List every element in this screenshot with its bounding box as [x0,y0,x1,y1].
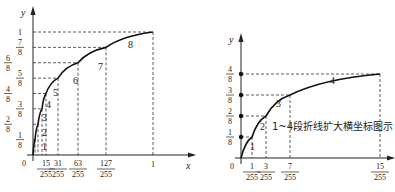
y-axis-label: y [228,34,234,45]
y-tick-numerator: 2 [228,107,232,116]
y-tick-dot [239,72,243,76]
x-tick-denominator: 255 [52,170,64,179]
segment-label: 4 [46,99,51,110]
x-tick-numerator: 15 [42,159,50,168]
y-tick-numerator: 3 [18,100,22,109]
y-tick-numerator: 2 [6,115,10,124]
origin-label: 0 [230,162,234,171]
y-tick-denominator: 8 [6,64,10,73]
curve-line [33,32,153,155]
x-tick-numerator: 7 [288,162,292,171]
segment-label: 2 [260,121,265,132]
segment-label: 1 [42,141,47,152]
x-tick-numerator: 127 [100,159,112,168]
y-tick-numerator: 7 [18,38,22,47]
origin-label: 0 [22,159,26,168]
y-axis-arrow [31,6,36,15]
x-tick-numerator: 1 [250,162,254,171]
segment-label: 2 [42,127,47,138]
y-tick-numerator: 4 [228,65,232,74]
x-axis-label: x [185,160,191,171]
y-tick-denominator: 8 [18,141,22,150]
y-tick-denominator: 8 [228,117,232,126]
x-tick-denominator: 255 [374,173,386,182]
annotation-text: 1~4段折线扩大横坐标图示 [272,120,393,132]
y-tick-denominator: 8 [228,96,232,105]
y-tick-numerator: 5 [18,69,22,78]
y-tick-dot [239,135,243,139]
y-tick-dot [239,93,243,97]
x-tick-denominator: 255 [100,170,112,179]
x-axis-arrow [387,156,395,161]
y-tick-denominator: 8 [6,125,10,134]
segment-label: 8 [128,39,133,50]
segment-label: 1 [250,141,255,152]
x-tick-numerator: 3 [264,162,268,171]
y-tick-numerator: 6 [6,54,10,63]
x-tick-denominator: 255 [72,170,84,179]
x-tick-numerator: 15 [376,162,384,171]
x-tick-numerator: 31 [54,159,62,168]
y-tick-denominator: 8 [228,75,232,84]
y-tick-numerator: 4 [6,85,10,94]
y-tick-denominator: 8 [228,138,232,147]
segment-label: 3 [42,112,47,123]
x-tick-denominator: 255 [284,173,296,182]
y-tick-denominator: 8 [18,110,22,119]
y-axis-arrow [239,33,244,42]
segment-label: 7 [98,61,103,72]
x-tick-denominator: 255 [246,173,258,182]
y-tick-denominator: 8 [18,79,22,88]
y-tick-denominator: 8 [18,48,22,57]
x-tick-label: 1 [151,160,155,169]
chart-expanded-segments: y0182838481255325572551525512341~4段折线扩大横… [226,33,395,182]
y-tick-dot [239,114,243,118]
segment-label: 6 [73,75,78,86]
y-tick-numerator: 1 [228,128,232,137]
chart-full-curve: yx01828384858687811525531255632551272551… [4,6,196,179]
x-tick-numerator: 63 [74,159,82,168]
x-axis-arrow [188,153,196,158]
segment-label: 3 [276,98,281,109]
segment-label: 4 [330,75,335,86]
x-tick-denominator: 255 [260,173,272,182]
segment-label: 5 [53,87,58,98]
y-tick-numerator: 3 [228,86,232,95]
figure: yx01828384858687811525531255632551272551… [0,0,395,192]
y-tick-denominator: 8 [6,95,10,104]
y-axis-label: y [20,7,26,18]
y-tick-numerator: 1 [18,131,22,140]
y-tick-label: 1 [18,28,22,37]
x-tick-denominator: 255 [40,170,52,179]
